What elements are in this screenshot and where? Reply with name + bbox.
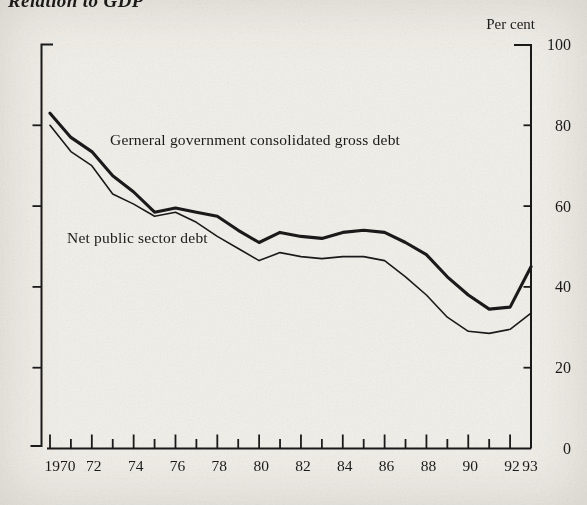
- x-tick-label: 92: [504, 457, 520, 474]
- x-tick-label: 84: [337, 457, 353, 474]
- x-tick-label: 93: [522, 457, 538, 474]
- y-tick-label: 20: [555, 359, 571, 376]
- debt-line-chart: 020406080100Per cent19707274767880828486…: [0, 0, 587, 505]
- series-label-net-debt: Net public sector debt: [67, 229, 208, 247]
- x-tick-label: 1970: [45, 457, 76, 474]
- x-tick-label: 80: [253, 457, 269, 474]
- x-tick-label: 82: [295, 457, 311, 474]
- x-tick-label: 86: [379, 457, 395, 474]
- scanned-chart-page: Relation to GDP 020406080100Per cent1970…: [0, 0, 587, 505]
- x-tick-label: 88: [421, 457, 437, 474]
- x-tick-label: 78: [212, 457, 228, 474]
- x-tick-label: 76: [170, 457, 186, 474]
- x-tick-label: 72: [86, 457, 102, 474]
- y-tick-label: 80: [555, 117, 571, 134]
- y-tick-label: 100: [547, 36, 571, 53]
- left-axis: [31, 45, 54, 447]
- series-label-gross-debt: Gerneral government consolidated gross d…: [110, 131, 400, 149]
- y-tick-label: 40: [555, 278, 571, 295]
- y-tick-label: 60: [555, 198, 571, 215]
- x-tick-label: 90: [463, 457, 479, 474]
- y-axis-unit-label: Per cent: [486, 16, 536, 32]
- y-tick-label: 0: [563, 440, 571, 457]
- right-axis: [514, 45, 531, 449]
- x-tick-label: 74: [128, 457, 144, 474]
